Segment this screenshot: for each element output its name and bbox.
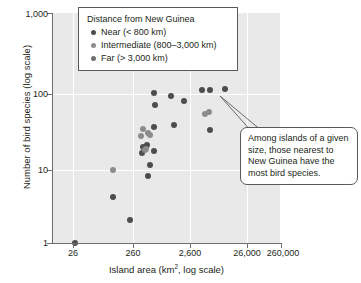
- data-point: [222, 86, 228, 92]
- bird-species-scatter-figure: 1,000 100 10 1 26 260 2,600 26,000 260,0…: [0, 0, 361, 283]
- data-point: [147, 162, 153, 168]
- data-point: [206, 109, 212, 115]
- gridline-x-26: [73, 13, 74, 243]
- legend-item-near: Near (< 800 km): [87, 26, 230, 39]
- data-point: [110, 167, 116, 173]
- legend-marker-intermediate-icon: [91, 43, 96, 48]
- data-point: [207, 127, 213, 133]
- data-point: [127, 217, 133, 223]
- data-point: [207, 87, 213, 93]
- gridline-y-100: [52, 94, 280, 95]
- legend-label-far: Far (> 3,000 km): [101, 53, 168, 64]
- legend: Distance from New Guinea Near (< 800 km)…: [78, 7, 238, 71]
- data-point: [110, 194, 116, 200]
- x-tick-label-260000: 260,000: [248, 249, 318, 258]
- x-axis-title-tail: , log scale): [178, 264, 224, 275]
- legend-item-far: Far (> 3,000 km): [87, 52, 230, 65]
- data-point: [145, 173, 151, 179]
- data-point: [152, 102, 158, 108]
- legend-marker-far-icon: [91, 56, 96, 61]
- y-tick-label-1000: 1,000: [0, 10, 48, 19]
- data-point: [168, 93, 174, 99]
- data-point: [151, 148, 157, 154]
- data-point: [147, 132, 153, 138]
- callout-annotation: Among islands of a given size, those nea…: [240, 127, 358, 185]
- legend-title: Distance from New Guinea: [87, 13, 230, 25]
- legend-item-intermediate: Intermediate (800–3,000 km): [87, 39, 230, 52]
- legend-marker-near-icon: [91, 30, 96, 35]
- data-point: [151, 90, 157, 96]
- y-tick-label-1: 1: [0, 239, 48, 248]
- y-axis-line: [52, 13, 53, 244]
- x-axis-title-main: Island area (km: [109, 264, 174, 275]
- data-point: [142, 147, 148, 153]
- data-point: [151, 124, 157, 130]
- legend-label-intermediate: Intermediate (800–3,000 km): [101, 40, 217, 51]
- data-point: [171, 122, 177, 128]
- data-point: [181, 98, 187, 104]
- y-axis-title: Number of bird species (log scale): [22, 27, 32, 207]
- x-axis-title: Island area (km2, log scale): [52, 265, 281, 275]
- legend-label-near: Near (< 800 km): [101, 27, 166, 38]
- data-point: [199, 87, 205, 93]
- callout-text: Among islands of a given size, those nea…: [248, 133, 351, 179]
- data-point: [138, 133, 144, 139]
